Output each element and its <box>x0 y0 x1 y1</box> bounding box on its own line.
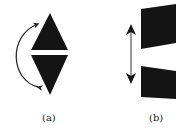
lower-plate <box>141 66 176 99</box>
upper-plate <box>141 4 176 49</box>
lower-triangle <box>31 55 68 95</box>
panel-b <box>126 4 176 99</box>
panel-a <box>16 13 68 95</box>
upper-triangle <box>31 13 68 50</box>
panel-a-label: (a) <box>42 113 56 123</box>
panel-b-label: (b) <box>149 113 163 123</box>
